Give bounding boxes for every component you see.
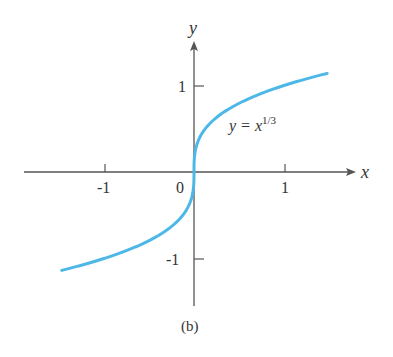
x-tick-label-minus-1: -1: [97, 179, 110, 196]
x-tick-label-0: 0: [176, 179, 184, 196]
y-tick-label-1: 1: [178, 78, 186, 95]
x-axis-label: x: [360, 162, 369, 182]
cube-root-chart: -1 0 1 1 -1 x y y = x1/3 (b): [0, 0, 393, 357]
y-axis-label: y: [187, 18, 197, 38]
y-tick-label-minus-1: -1: [166, 251, 179, 268]
figure-caption: (b): [181, 318, 199, 335]
x-tick-label-1: 1: [281, 179, 289, 196]
curve-label: y = x1/3: [227, 114, 277, 135]
